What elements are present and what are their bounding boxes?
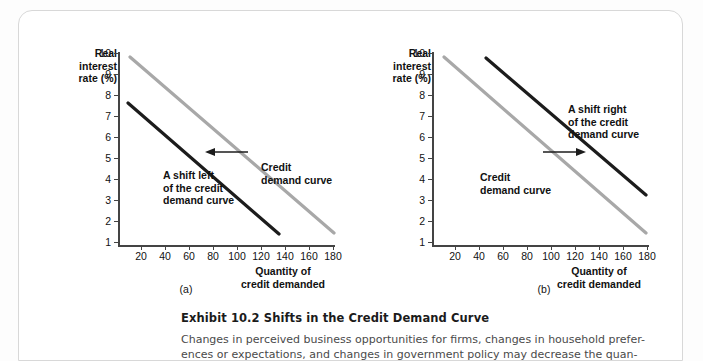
panel-a-tag: (a) [166,283,206,295]
panel-b-curves [349,11,669,301]
panel-b-label-credit-demand-curve: Credit demand curve [480,171,551,196]
panel-a-label-shift-left: A shift left of the credit demand curve [163,169,234,207]
panel-b-label-shift-right: A shift right of the credit demand curve [568,103,639,141]
exhibit-title: Exhibit 10.2 Shifts in the Credit Demand… [181,311,681,325]
panel-b-tag: (b) [524,283,564,295]
exhibit-body-text: Changes in perceived business opportunit… [181,332,681,361]
panel-a-label-credit-demand-curve: Credit demand curve [261,161,332,186]
exhibit-caption: Exhibit 10.2 Shifts in the Credit Demand… [181,311,681,361]
exhibit-card: Real interest rate (%) 10 9 8 7 6 5 4 [18,10,683,361]
panel-a-curves [33,11,353,301]
figure-page: Real interest rate (%) 10 9 8 7 6 5 4 [0,0,703,361]
chart-panel-a: Real interest rate (%) 10 9 8 7 6 5 4 [33,11,353,301]
panel-a-credit-demand-curve [130,57,334,233]
chart-panel-b: Real interest rate (%) 10 9 8 7 6 5 4 3 [349,11,669,301]
figure-area: Real interest rate (%) 10 9 8 7 6 5 4 [19,11,684,301]
panel-b-credit-demand-curve [444,57,646,233]
